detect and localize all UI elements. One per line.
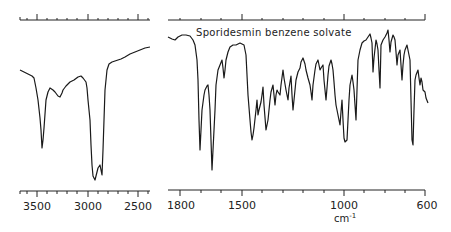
left-bottom-axis	[20, 191, 150, 197]
ir-spectrum-chart: 3500 3000 2500 1800 1500 1000	[0, 0, 451, 232]
tick-label-1800: 1800	[167, 199, 195, 212]
right-top-axis	[168, 14, 425, 20]
right-bottom-axis	[168, 190, 425, 196]
tick-label-3500: 3500	[23, 200, 51, 213]
spectrum-trace-right	[168, 30, 428, 170]
left-top-axis	[20, 14, 150, 20]
x-axis-unit-exponent: -1	[349, 212, 356, 220]
tick-label-3000: 3000	[74, 200, 102, 213]
spectrum-trace-left	[20, 47, 150, 180]
tick-label-2500: 2500	[124, 200, 152, 213]
tick-label-1000: 1000	[330, 199, 358, 212]
chart-title: Sporidesmin benzene solvate	[196, 27, 352, 38]
tick-label-1500: 1500	[228, 199, 256, 212]
x-axis-unit: cm	[334, 213, 349, 224]
x-axis-label: cm-1	[334, 212, 356, 224]
tick-label-600: 600	[417, 199, 438, 212]
